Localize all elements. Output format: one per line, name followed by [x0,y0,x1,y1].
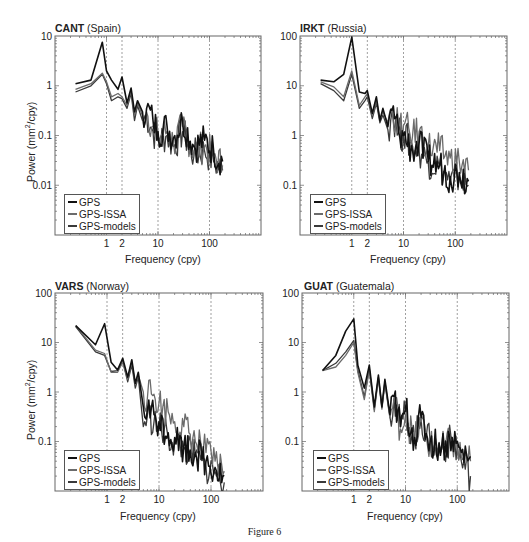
figure-caption: Figure 6 [0,526,529,537]
svg-text:100: 100 [449,494,466,505]
x-axis-label: Frequency (cpy) [367,510,443,522]
svg-text:100: 100 [282,288,299,299]
svg-text:1: 1 [351,494,357,505]
legend-item-gps-issa: GPS-ISSA [317,464,385,476]
svg-text:10: 10 [288,337,300,348]
svg-text:0.1: 0.1 [285,436,299,447]
plot-area: 12101001001010.1 [0,0,529,542]
chart-panel-guat: GUAT (Guatemala) 12101001001010.1 GPS GP… [0,0,529,542]
legend-item-gps-models: GPS-models [317,476,385,488]
svg-text:10: 10 [400,494,412,505]
svg-text:1: 1 [293,387,299,398]
svg-text:2: 2 [367,494,373,505]
legend-item-gps: GPS [317,452,385,464]
legend: GPS GPS-ISSA GPS-models [313,450,389,490]
